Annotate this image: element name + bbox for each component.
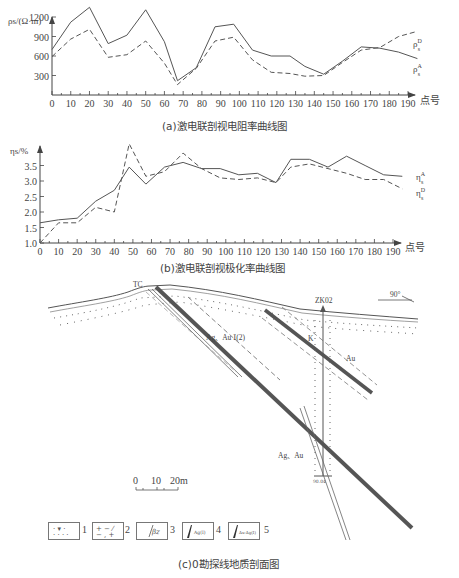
legend-eta-d: ηDs (416, 187, 426, 201)
x-tick-label: 100 (218, 246, 233, 257)
legend-num-3: 3 (170, 524, 175, 535)
legend-rho-d: ρDs (413, 38, 423, 52)
x-tick-label: 170 (348, 246, 363, 257)
x-tick-label: 140 (307, 98, 322, 109)
x-tick-label: 130 (274, 246, 289, 257)
y-tick-label: 2.5 (25, 192, 38, 203)
x-tick-label: 100 (232, 98, 247, 109)
x-tick-label: 160 (344, 98, 359, 109)
x-tick-label: 10 (54, 246, 64, 257)
y-tick-label: 900 (34, 32, 49, 43)
legend-symbol-4: Ag(Ⅰ) (182, 522, 214, 540)
svg-text:− ‚ +: − ‚ + (96, 531, 115, 539)
legend-num-1: 1 (82, 524, 87, 535)
x-tick-label: 60 (159, 98, 169, 109)
y-axis-label: ρs/(Ω·m) (8, 16, 41, 26)
x-tick-label: 50 (128, 246, 138, 257)
svg-text:βz: βz (151, 528, 160, 536)
drill-marker-icon (320, 305, 326, 312)
x-tick-label: 70 (165, 246, 175, 257)
x-tick-label: 40 (109, 246, 119, 257)
label-k: K (308, 334, 314, 343)
label-direction: 90° (390, 290, 401, 299)
y-tick-label: 300 (34, 71, 49, 82)
figure-canvas: 0102030405060708090100110120130140150160… (0, 0, 459, 578)
x-tick-label: 180 (382, 98, 397, 109)
svg-text:· · · ·: · · · · (53, 531, 69, 539)
caption-a: (a)激电联剖视电阻率曲线图 (162, 118, 287, 133)
x-tick-label: 20 (72, 246, 82, 257)
label-hole-depth: 90.04 (313, 479, 326, 484)
x-tick-label: 180 (367, 246, 382, 257)
legend-symbol-1: · ▾ ·· · · · (48, 522, 80, 540)
caption-c: (c)0勘探线地质剖面图 (178, 556, 279, 571)
polarizability-chart: 0102030405060708090100110120130140150160… (10, 144, 426, 257)
ground-surface-lower (50, 289, 418, 322)
y-tick-label: 1.0 (25, 238, 38, 249)
label-zk02: ZK02 (315, 296, 333, 305)
y-tick-label: 600 (34, 51, 49, 62)
x-tick-label: 170 (363, 98, 378, 109)
label-vein1: Ag、Au Ⅰ(2) (206, 333, 245, 342)
x-axis-unit: 点号 (420, 95, 440, 106)
scale-bar: 0 10 20m (133, 475, 188, 490)
legend-eta-a: ηAs (416, 171, 426, 185)
y-tick-label: 3.0 (25, 176, 38, 187)
x-tick-label: 50 (141, 98, 151, 109)
x-tick-label: 30 (91, 246, 101, 257)
legend-symbol-2: + − ⁄− ‚ + (92, 522, 124, 540)
svg-text:10: 10 (151, 475, 161, 486)
label-vein3: Ag、Au (278, 451, 304, 460)
x-tick-label: 40 (122, 98, 132, 109)
series-solid (40, 156, 402, 223)
x-tick-label: 60 (146, 246, 156, 257)
svg-text:20m: 20m (170, 475, 188, 486)
x-tick-label: 150 (326, 98, 341, 109)
svg-text:0: 0 (133, 475, 138, 486)
x-tick-label: 190 (386, 246, 401, 257)
x-tick-label: 90 (216, 98, 226, 109)
x-tick-label: 120 (255, 246, 270, 257)
y-tick-label: 1.5 (25, 223, 38, 234)
x-tick-label: 10 (66, 98, 76, 109)
x-tick-label: 80 (197, 98, 207, 109)
legend-num-5: 5 (264, 524, 269, 535)
svg-text:Au-Ag(Ⅰ): Au-Ag(Ⅰ) (238, 530, 256, 535)
weathered-layer (60, 302, 418, 334)
series-solid (52, 7, 417, 80)
caption-b: (b)激电联剖视极化率曲线图 (160, 260, 285, 275)
legend-num-4: 4 (216, 524, 221, 535)
x-tick-label: 110 (251, 98, 266, 109)
x-tick-label: 0 (50, 98, 55, 109)
x-tick-label: 20 (84, 98, 94, 109)
series-dashed (40, 144, 402, 243)
x-tick-label: 130 (288, 98, 303, 109)
y-axis-label: ηs/% (10, 146, 29, 156)
resistivity-chart: 0102030405060708090100110120130140150160… (8, 7, 440, 109)
x-tick-label: 150 (311, 246, 326, 257)
x-tick-label: 190 (401, 98, 416, 109)
label-tc: TC (133, 280, 143, 289)
legend-symbol-3: βz (136, 522, 168, 540)
weathered-layer (54, 296, 418, 328)
svg-text:Ag(Ⅰ): Ag(Ⅰ) (193, 530, 206, 535)
x-tick-label: 110 (237, 246, 252, 257)
ore-vein-second (265, 310, 372, 393)
x-tick-label: 90 (202, 246, 212, 257)
fault-line (304, 406, 350, 540)
x-tick-label: 120 (269, 98, 284, 109)
legend-num-2: 2 (125, 524, 130, 535)
series-dashed (52, 29, 417, 84)
y-tick-label: 2.0 (25, 207, 38, 218)
legend-symbol-5: Au-Ag(Ⅰ) (228, 522, 260, 540)
label-vein2: Au (346, 354, 355, 363)
y-tick-label: 3.5 (25, 161, 38, 172)
x-tick-label: 30 (103, 98, 113, 109)
geological-section: TC ZK02 90° Ag、Au Ⅰ(2) Au K Ag、Au 90.04 … (48, 280, 418, 540)
x-axis-unit: 点号 (405, 242, 425, 253)
x-tick-label: 140 (293, 246, 308, 257)
direction-arrow-head-icon (402, 296, 414, 302)
x-tick-label: 70 (178, 98, 188, 109)
x-tick-label: 0 (38, 246, 43, 257)
x-tick-label: 160 (330, 246, 345, 257)
